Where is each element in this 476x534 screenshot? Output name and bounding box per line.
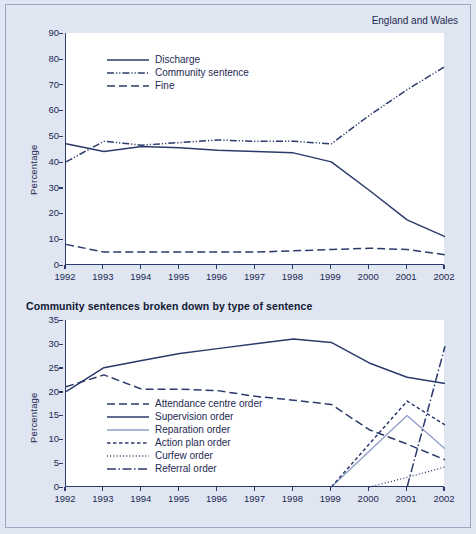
legend-swatch bbox=[107, 398, 149, 410]
legend-label: Reparation order bbox=[155, 425, 230, 435]
legend-label: Community sentence bbox=[155, 68, 249, 78]
y-tick-label: 40 bbox=[31, 157, 59, 167]
x-tick-mark bbox=[368, 487, 369, 491]
x-tick-label: 2000 bbox=[348, 494, 388, 504]
y-tick-mark bbox=[59, 367, 63, 368]
legend-item: Discharge bbox=[107, 53, 249, 66]
y-tick-label: 5 bbox=[31, 458, 59, 468]
legend-item: Attendance centre order bbox=[107, 397, 262, 410]
y-tick-label: 30 bbox=[31, 339, 59, 349]
series-line bbox=[66, 244, 445, 254]
x-tick-label: 1997 bbox=[235, 494, 275, 504]
x-tick-label: 1996 bbox=[197, 494, 237, 504]
x-tick-mark bbox=[140, 487, 141, 491]
bottom-line-chart: Community sentences broken down by type … bbox=[6, 293, 472, 529]
series-line bbox=[66, 144, 445, 237]
y-tick-mark bbox=[59, 265, 63, 266]
x-tick-mark bbox=[216, 265, 217, 269]
x-tick-mark bbox=[368, 265, 369, 269]
y-tick-mark bbox=[59, 439, 63, 440]
x-tick-label: 1996 bbox=[197, 272, 237, 282]
x-tick-label: 1999 bbox=[310, 272, 350, 282]
legend-item: Community sentence bbox=[107, 66, 249, 79]
x-tick-mark bbox=[443, 265, 444, 269]
legend-swatch bbox=[107, 437, 149, 449]
legend-label: Referral order bbox=[155, 464, 217, 474]
y-tick-mark bbox=[59, 33, 63, 34]
y-tick-mark bbox=[59, 415, 63, 416]
x-tick-mark bbox=[64, 487, 65, 491]
y-tick-label: 30 bbox=[31, 183, 59, 193]
y-tick-mark bbox=[59, 239, 63, 240]
series-line bbox=[66, 339, 445, 391]
legend-bottom: Attendance centre orderSupervision order… bbox=[107, 397, 262, 475]
x-tick-mark bbox=[254, 265, 255, 269]
series-line bbox=[331, 401, 445, 487]
region-annotation: England and Wales bbox=[372, 15, 458, 26]
x-tick-label: 1998 bbox=[272, 494, 312, 504]
y-tick-label: 35 bbox=[31, 315, 59, 325]
x-tick-label: 1993 bbox=[83, 494, 123, 504]
legend-swatch bbox=[107, 67, 149, 79]
x-tick-mark bbox=[178, 487, 179, 491]
y-tick-mark bbox=[59, 463, 63, 464]
x-tick-label: 2001 bbox=[386, 272, 426, 282]
x-tick-mark bbox=[254, 487, 255, 491]
panel-title: Community sentences broken down by type … bbox=[26, 300, 312, 312]
x-tick-mark bbox=[216, 487, 217, 491]
legend-swatch bbox=[107, 424, 149, 436]
x-tick-mark bbox=[140, 265, 141, 269]
y-tick-label: 20 bbox=[31, 208, 59, 218]
y-tick-label: 0 bbox=[31, 260, 59, 270]
legend-label: Attendance centre order bbox=[155, 399, 262, 409]
x-tick-label: 2001 bbox=[386, 494, 426, 504]
y-tick-label: 80 bbox=[31, 54, 59, 64]
x-tick-label: 2002 bbox=[424, 272, 464, 282]
x-tick-mark bbox=[102, 487, 103, 491]
y-tick-label: 10 bbox=[31, 234, 59, 244]
y-tick-mark bbox=[59, 487, 63, 488]
x-tick-mark bbox=[178, 265, 179, 269]
x-tick-label: 2002 bbox=[424, 494, 464, 504]
x-tick-mark bbox=[64, 265, 65, 269]
legend-top: DischargeCommunity sentenceFine bbox=[107, 53, 249, 92]
y-tick-mark bbox=[59, 110, 63, 111]
y-tick-mark bbox=[59, 187, 63, 188]
legend-item: Referral order bbox=[107, 462, 262, 475]
x-tick-label: 1995 bbox=[159, 494, 199, 504]
x-tick-mark bbox=[292, 265, 293, 269]
y-tick-mark bbox=[59, 84, 63, 85]
y-tick-mark bbox=[59, 162, 63, 163]
series-line bbox=[407, 346, 445, 487]
y-tick-label: 20 bbox=[31, 387, 59, 397]
x-tick-label: 1999 bbox=[310, 494, 350, 504]
x-tick-mark bbox=[406, 265, 407, 269]
y-tick-label: 90 bbox=[31, 28, 59, 38]
legend-label: Fine bbox=[155, 81, 174, 91]
y-tick-label: 50 bbox=[31, 131, 59, 141]
y-tick-label: 15 bbox=[31, 410, 59, 420]
legend-label: Discharge bbox=[155, 55, 200, 65]
legend-swatch bbox=[107, 411, 149, 423]
x-tick-mark bbox=[102, 265, 103, 269]
legend-label: Action plan order bbox=[155, 438, 231, 448]
x-tick-mark bbox=[443, 487, 444, 491]
x-tick-label: 1994 bbox=[121, 494, 161, 504]
top-line-chart: England and Wales Percentage 01020304050… bbox=[6, 5, 472, 287]
x-tick-label: 1998 bbox=[272, 272, 312, 282]
series-line bbox=[331, 415, 445, 487]
y-tick-mark bbox=[59, 59, 63, 60]
x-tick-label: 1993 bbox=[83, 272, 123, 282]
x-tick-label: 2000 bbox=[348, 272, 388, 282]
x-tick-label: 1992 bbox=[45, 494, 85, 504]
y-tick-mark bbox=[59, 136, 63, 137]
y-tick-label: 70 bbox=[31, 80, 59, 90]
y-tick-label: 25 bbox=[31, 363, 59, 373]
x-tick-mark bbox=[330, 265, 331, 269]
legend-swatch bbox=[107, 463, 149, 475]
x-tick-mark bbox=[406, 487, 407, 491]
chart-page: England and Wales Percentage 01020304050… bbox=[0, 0, 476, 534]
legend-item: Supervision order bbox=[107, 410, 262, 423]
legend-swatch bbox=[107, 80, 149, 92]
legend-swatch bbox=[107, 54, 149, 66]
